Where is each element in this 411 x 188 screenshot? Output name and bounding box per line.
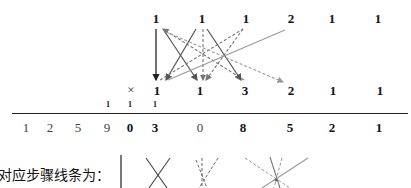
cross-multiplication-arrows bbox=[0, 0, 411, 188]
step-legend bbox=[121, 155, 308, 188]
legend-step4-a bbox=[245, 158, 290, 188]
legend-step4-d bbox=[262, 158, 308, 188]
legend-step2-b bbox=[149, 158, 170, 188]
legend-step2-a bbox=[146, 158, 167, 188]
step4-line-b bbox=[168, 30, 285, 80]
step4-arrow-c bbox=[166, 32, 283, 82]
step-lines-caption: 对应步骤线条为： bbox=[0, 164, 110, 184]
step4-arrow-a bbox=[207, 29, 241, 80]
step3-line-d bbox=[160, 29, 243, 80]
